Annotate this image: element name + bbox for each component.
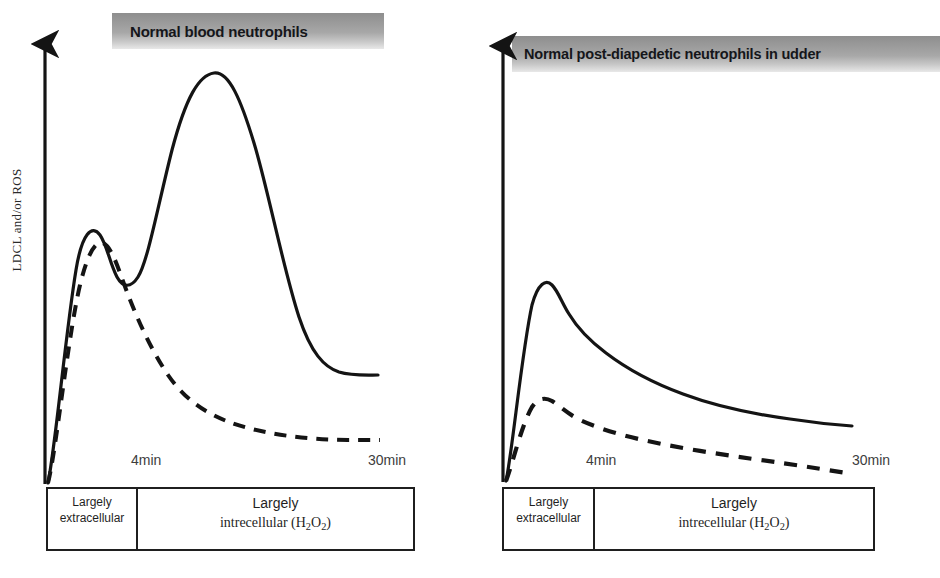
phase-table-left: Largely extracellular Largely intrecellu… — [46, 487, 415, 551]
phase-cell-extracellular-left: Largely extracellular — [48, 489, 138, 549]
phase-intracellular-mid-right: O — [770, 515, 780, 530]
phase-intracellular-post-left: ) — [326, 515, 331, 530]
dashed-curve-left — [48, 243, 380, 483]
phase-extracellular-line2-left: extracellular — [60, 511, 125, 525]
x-tick-30min-left: 30min — [368, 452, 406, 468]
phase-intracellular-post-right: ) — [785, 515, 790, 530]
x-tick-4min-left: 4min — [131, 452, 161, 468]
phase-intracellular-pre-right: intrecellular (H — [678, 515, 764, 530]
phase-extracellular-line2-right: extracellular — [516, 511, 581, 525]
chart-panel-left: Normal blood neutrophils LDCL and/or ROS… — [0, 0, 470, 578]
phase-intracellular-line1-right: Largely — [711, 495, 757, 511]
phase-table-right: Largely extracellular Largely intrecellu… — [502, 487, 875, 551]
phase-intracellular-line1-left: Largely — [253, 495, 299, 511]
phase-extracellular-line1-left: Largely — [72, 495, 111, 509]
x-tick-30min-right: 30min — [852, 452, 890, 468]
x-tick-4min-right: 4min — [586, 452, 616, 468]
phase-cell-extracellular-right: Largely extracellular — [504, 489, 595, 549]
phase-intracellular-mid-left: O — [311, 515, 321, 530]
phase-cell-intracellular-right: Largely intrecellular (H2O2) — [595, 489, 873, 549]
phase-cell-intracellular-left: Largely intrecellular (H2O2) — [138, 489, 413, 549]
figure-root: Normal blood neutrophils LDCL and/or ROS… — [0, 0, 940, 578]
dashed-curve-right — [506, 399, 852, 481]
solid-curve-right — [506, 282, 852, 481]
phase-intracellular-pre-left: intrecellular (H — [220, 515, 306, 530]
phase-extracellular-line1-right: Largely — [529, 495, 568, 509]
chart-panel-right: Normal post-diapedetic neutrophils in ud… — [470, 0, 940, 578]
solid-curve-left — [48, 73, 378, 483]
